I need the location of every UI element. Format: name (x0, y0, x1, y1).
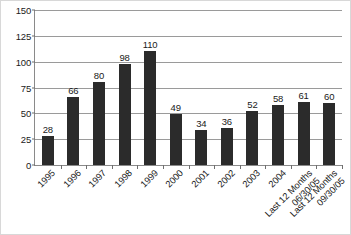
ytick-label-100: 100 (16, 56, 31, 67)
x-axis-label-line: 1997 (87, 168, 108, 189)
bar[interactable] (119, 64, 131, 165)
bar[interactable] (42, 136, 54, 165)
bar-slot: 34 (189, 10, 215, 165)
x-axis-label-line: 1995 (36, 168, 57, 189)
bar[interactable] (93, 82, 105, 165)
bar[interactable] (170, 114, 182, 165)
bar[interactable] (246, 111, 258, 165)
bar-slot: 60 (316, 10, 342, 165)
bar[interactable] (298, 102, 310, 165)
x-axis-label-line: 2002 (215, 168, 236, 189)
bar-slot: 80 (86, 10, 112, 165)
plot-area: 150 125 100 75 50 25 0 28668098110493436… (34, 10, 342, 166)
bar-value-label: 80 (94, 70, 104, 81)
bar-value-label: 66 (68, 85, 78, 96)
bar-value-label: 36 (222, 116, 232, 127)
bar[interactable] (67, 97, 79, 165)
bar-slot: 66 (61, 10, 87, 165)
ytick-label-125: 125 (16, 30, 31, 41)
bar-value-label: 58 (273, 93, 283, 104)
x-axis-label-line: 1999 (138, 168, 159, 189)
bar-value-label: 60 (324, 91, 334, 102)
bar-slot: 36 (214, 10, 240, 165)
x-axis-label: 1998 (113, 168, 135, 190)
x-axis-label-line: 1996 (61, 168, 82, 189)
bar-slot: 49 (163, 10, 189, 165)
x-axis-label-line: 1998 (113, 168, 134, 189)
x-axis-label: 2003 (241, 168, 263, 190)
x-axis-label-line: 2003 (241, 168, 262, 189)
bar-slot: 98 (112, 10, 138, 165)
ytick-label-150: 150 (16, 5, 31, 16)
x-axis-label: 1997 (87, 168, 109, 190)
x-axis-label-line: 2001 (190, 168, 211, 189)
x-axis-label-line: 2004 (267, 168, 288, 189)
x-axis-label-line: 2000 (164, 168, 185, 189)
bar[interactable] (195, 130, 207, 165)
bar-value-label: 110 (143, 39, 158, 50)
x-axis-label: 2000 (164, 168, 186, 190)
bar-slot: 28 (35, 10, 61, 165)
bar-chart-figure: 150 125 100 75 50 25 0 28668098110493436… (0, 0, 351, 235)
x-axis-label: 2002 (215, 168, 237, 190)
bar-value-label: 98 (119, 52, 129, 63)
bar-value-label: 61 (299, 90, 309, 101)
x-axis-label: 1995 (36, 168, 58, 190)
bar-value-label: 49 (171, 102, 181, 113)
bar-slot: 61 (291, 10, 317, 165)
ytick-label-50: 50 (21, 108, 31, 119)
bar-slot: 110 (137, 10, 163, 165)
ytick-label-0: 0 (26, 160, 31, 171)
bar-slot: 58 (265, 10, 291, 165)
x-axis-label: 1999 (138, 168, 160, 190)
bar-value-label: 34 (196, 118, 206, 129)
bar[interactable] (323, 103, 335, 165)
ytick-label-25: 25 (21, 134, 31, 145)
bar-value-label: 52 (247, 99, 257, 110)
bars-layer: 2866809811049343652586160 (35, 10, 342, 165)
bar[interactable] (221, 128, 233, 165)
xtick-mark (342, 165, 343, 169)
ytick-label-75: 75 (21, 82, 31, 93)
bar-value-label: 28 (43, 124, 53, 135)
x-axis-label: 2004 (267, 168, 289, 190)
bar[interactable] (144, 51, 156, 165)
x-axis-label: 1996 (61, 168, 83, 190)
bar[interactable] (272, 105, 284, 165)
bar-slot: 52 (240, 10, 266, 165)
x-axis-label: 2001 (190, 168, 212, 190)
x-axis-labels: 1995199619971998199920002001200220032004… (34, 168, 342, 234)
